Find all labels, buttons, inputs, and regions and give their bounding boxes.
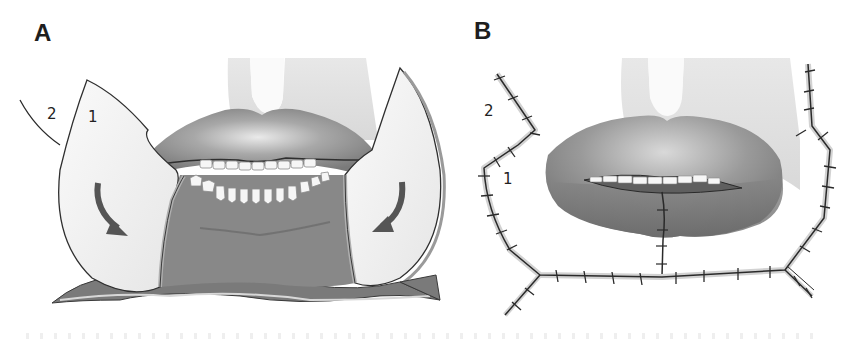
panel-b xyxy=(478,58,836,315)
flap-2-label-b: 2 xyxy=(484,104,494,119)
flap-2-label-a: 2 xyxy=(47,107,57,122)
panel-a xyxy=(20,58,444,303)
flap-1-label-b: 1 xyxy=(503,172,513,187)
cropped-caption-strip xyxy=(0,333,862,339)
lip-reconstruction-illustration xyxy=(0,0,862,339)
flap-1-label-a: 1 xyxy=(88,110,98,125)
